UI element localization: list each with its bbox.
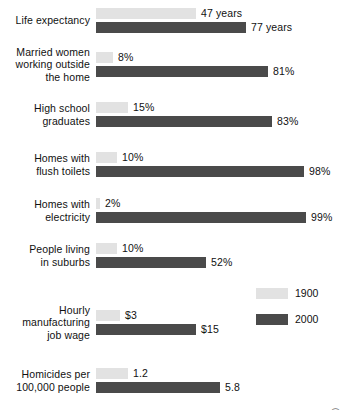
bar-1900: [96, 152, 117, 163]
chart-rows: Life expectancy47 years77 yearsMarried w…: [0, 0, 316, 410]
row-label-line: Hourly: [0, 304, 90, 316]
bar-line-2000: 83%: [96, 116, 298, 127]
row-bars: 1.25.8: [96, 368, 240, 393]
row-bars: 15%83%: [96, 102, 298, 127]
row-bars: 2%99%: [96, 198, 332, 223]
row-bars: 47 years77 years: [96, 8, 292, 33]
bar-value-label: 47 years: [196, 8, 242, 19]
legend-item-2000: 2000: [256, 314, 336, 326]
comparison-bar-chart: Life expectancy47 years77 yearsMarried w…: [0, 0, 348, 410]
bar-line-2000: 77 years: [96, 22, 292, 33]
bar-value-label: 15%: [128, 102, 154, 113]
bar-line-2000: 52%: [96, 257, 232, 268]
row-label-line: in suburbs: [0, 256, 90, 268]
row-label-line: People living: [0, 243, 90, 255]
bar-2000: [96, 66, 268, 77]
bar-value-label: 10%: [117, 243, 143, 254]
bar-2000: [96, 382, 220, 393]
bar-1900: [96, 310, 120, 321]
row-label: Life expectancy: [0, 14, 90, 26]
row-label-line: Homes with: [0, 198, 90, 210]
row-bars: 10%98%: [96, 152, 330, 177]
bar-line-1900: 15%: [96, 102, 298, 113]
bar-line-1900: 47 years: [96, 8, 292, 19]
row-bars: 8%81%: [96, 52, 294, 77]
row-label-line: High school: [0, 102, 90, 114]
bar-line-1900: 8%: [96, 52, 294, 63]
bar-2000: [96, 22, 246, 33]
bar-1900: [96, 102, 128, 113]
row-label-line: manufacturing: [0, 316, 90, 328]
row-label: Homes withelectricity: [0, 198, 90, 223]
bar-value-label: 83%: [272, 116, 298, 127]
bar-1900: [96, 243, 117, 254]
row-label-line: graduates: [0, 115, 90, 127]
legend-swatch: [256, 288, 288, 299]
bar-line-2000: 98%: [96, 166, 330, 177]
bar-value-label: 77 years: [246, 22, 292, 33]
row-label-line: 100,000 people: [0, 381, 90, 393]
bar-value-label: $15: [196, 324, 219, 335]
bar-value-label: 5.8: [220, 382, 240, 393]
legend-swatch: [256, 314, 288, 325]
row-label-line: the home: [0, 71, 90, 83]
bar-2000: [96, 166, 304, 177]
bar-line-1900: $3: [96, 310, 219, 321]
bar-2000: [96, 324, 196, 335]
bar-value-label: 10%: [117, 152, 143, 163]
bar-1900: [96, 8, 196, 19]
bar-line-1900: 1.2: [96, 368, 240, 379]
row-label-line: Homes with: [0, 152, 90, 164]
row-bars: 10%52%: [96, 243, 232, 268]
bar-1900: [96, 52, 113, 63]
bar-line-1900: 10%: [96, 152, 330, 163]
row-bars: $3$15: [96, 310, 219, 335]
bar-value-label: 8%: [113, 52, 133, 63]
row-label-line: job wage: [0, 329, 90, 341]
row-label-line: Married women: [0, 46, 90, 58]
bar-line-2000: 81%: [96, 66, 294, 77]
bar-line-1900: 2%: [96, 198, 332, 209]
bar-value-label: 52%: [206, 257, 232, 268]
legend-label: 1900: [288, 288, 318, 299]
row-label-line: Homicides per: [0, 368, 90, 380]
bar-value-label: 98%: [304, 166, 330, 177]
chart-legend: 19002000: [256, 288, 336, 340]
row-label-line: working outside: [0, 58, 90, 70]
bar-value-label: 2%: [100, 198, 120, 209]
bar-1900: [96, 368, 128, 379]
bar-line-2000: 99%: [96, 212, 332, 223]
bar-value-label: 81%: [268, 66, 294, 77]
bar-line-1900: 10%: [96, 243, 232, 254]
row-label: Married womenworking outsidethe home: [0, 46, 90, 83]
bar-2000: [96, 212, 306, 223]
bar-2000: [96, 257, 206, 268]
bar-2000: [96, 116, 272, 127]
legend-label: 2000: [288, 314, 318, 325]
row-label: People livingin suburbs: [0, 243, 90, 268]
row-label-line: flush toilets: [0, 165, 90, 177]
bar-line-2000: 5.8: [96, 382, 240, 393]
row-label: High schoolgraduates: [0, 102, 90, 127]
row-label: Homicides per100,000 people: [0, 368, 90, 393]
bar-line-2000: $15: [96, 324, 219, 335]
bar-value-label: 99%: [306, 212, 332, 223]
bar-value-label: 1.2: [128, 368, 148, 379]
bar-value-label: $3: [120, 310, 137, 321]
row-label: Homes withflush toilets: [0, 152, 90, 177]
legend-item-1900: 1900: [256, 288, 336, 300]
row-label: Hourlymanufacturingjob wage: [0, 304, 90, 341]
row-label-line: electricity: [0, 211, 90, 223]
row-label-line: Life expectancy: [0, 14, 90, 26]
